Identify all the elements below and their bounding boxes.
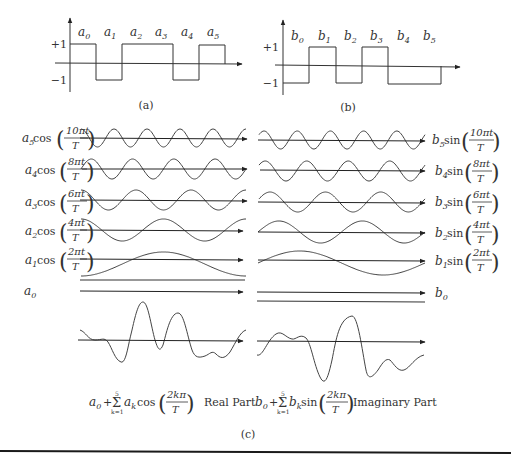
svg-text:): ) <box>186 391 195 416</box>
svg-text:sin: sin <box>444 134 460 147</box>
segment-label-b0: b0 <box>291 29 304 45</box>
panel-c-sine-components: b5 sin ( 10πt T ) b4 sin ( 8πt T ) <box>257 127 501 381</box>
svg-text:6πt: 6πt <box>68 188 86 199</box>
svg-text:b0: b0 <box>255 395 268 411</box>
cos-label-1: a1 cos ( 2πt T ) <box>25 246 95 274</box>
panel-b-x-axis <box>275 65 460 67</box>
imaginary-part-axis <box>257 341 425 342</box>
svg-text:T: T <box>477 173 485 184</box>
real-part-axis <box>78 340 243 341</box>
cos-row-3: a3 cos ( 6πt T ) <box>25 188 247 216</box>
svg-text:sin: sin <box>447 255 463 268</box>
svg-text:T: T <box>72 203 80 214</box>
segment-label-a2: a2 <box>130 25 142 41</box>
svg-text:10πt: 10πt <box>470 127 494 138</box>
imaginary-part-label: Imaginary Part <box>353 396 437 409</box>
svg-text:sin: sin <box>301 396 317 409</box>
svg-text:2πt: 2πt <box>67 246 86 257</box>
svg-text:T: T <box>72 171 80 182</box>
svg-text:2kπ: 2kπ <box>166 389 186 400</box>
svg-text:): ) <box>86 159 95 184</box>
sin-dc-axis <box>257 292 425 293</box>
real-part-formula: a0 + Σ 5 k=1 ak cos ( 2kπ T ) Real Part <box>89 389 256 416</box>
svg-text:a0: a0 <box>89 395 101 411</box>
svg-text:8πt: 8πt <box>68 156 86 167</box>
sin-axis-2 <box>258 232 425 233</box>
cos-label-2: a2 cos ( 4πt T ) <box>25 217 95 245</box>
svg-text:(: ( <box>158 391 167 416</box>
svg-text:8πt: 8πt <box>473 158 491 169</box>
segment-label-b2: b2 <box>344 29 357 45</box>
panel-c-caption: (c) <box>241 428 256 441</box>
svg-text:(: ( <box>464 250 473 275</box>
svg-text:(: ( <box>59 159 68 184</box>
cos-axis-2 <box>80 230 243 231</box>
sin-axis-5 <box>258 140 425 141</box>
cos-axis-1 <box>80 259 243 260</box>
fourier-decomposition-figure: +1 −1 a0 a1 a2 a3 a4 a5 (a) +1 −1 b0 b1 … <box>0 0 511 462</box>
cos-row-1: a1 cos ( 2πt T ) <box>25 246 246 276</box>
svg-text:T: T <box>72 140 80 151</box>
sin-row-5: b5 sin ( 10πt T ) <box>258 127 501 154</box>
dc-label-a0: a0 <box>24 284 36 300</box>
svg-text:): ) <box>87 127 96 152</box>
cos-label-4: a4 cos ( 8πt T ) <box>25 156 95 184</box>
svg-text:(: ( <box>318 391 327 416</box>
svg-text:k=1: k=1 <box>111 408 123 415</box>
svg-text:b4: b4 <box>435 164 448 180</box>
svg-text:b1: b1 <box>435 254 448 270</box>
cos-dc-axis <box>80 291 243 292</box>
segment-label-b1: b1 <box>318 29 331 45</box>
svg-text:b2: b2 <box>435 226 448 242</box>
svg-text:): ) <box>86 220 95 245</box>
sin-label-1: b1 sin ( 2πt T ) <box>435 247 500 275</box>
real-part-sum-wave <box>80 302 246 362</box>
real-part-label: Real Part <box>204 396 256 409</box>
sin-row-4: b4 sin ( 8πt T ) <box>259 158 500 185</box>
sin-label-4: b4 sin ( 8πt T ) <box>435 158 500 185</box>
svg-text:): ) <box>491 191 500 216</box>
svg-text:(: ( <box>464 191 473 216</box>
dc-label-b0: b0 <box>435 286 448 302</box>
svg-text:T: T <box>332 404 340 415</box>
sin-row-1: b1 sin ( 2πt T ) <box>258 247 500 275</box>
cos-row-4: a4 cos ( 8πt T ) <box>25 156 247 184</box>
svg-text:b3: b3 <box>435 195 448 211</box>
svg-text:6πt: 6πt <box>473 189 491 200</box>
svg-text:cos: cos <box>37 196 56 209</box>
svg-text:): ) <box>491 222 500 247</box>
panel-a-segment-labels: a0 a1 a2 a3 a4 a5 <box>78 25 219 41</box>
svg-text:2πt: 2πt <box>472 247 491 258</box>
sin-row-3: b3 sin ( 6πt T ) <box>258 189 500 216</box>
svg-text:a4: a4 <box>25 163 37 179</box>
segment-label-b4: b4 <box>397 29 410 45</box>
panel-a-square-wave: +1 −1 a0 a1 a2 a3 a4 a5 (a) <box>51 18 242 112</box>
panel-a-x-axis <box>55 63 242 64</box>
panel-b-tick-plus1: +1 <box>263 41 279 54</box>
svg-text:cos: cos <box>37 254 56 267</box>
sin-label-2: b2 sin ( 4πt T ) <box>435 219 500 247</box>
svg-text:a1: a1 <box>25 253 37 269</box>
panel-a-tick-minus1: −1 <box>51 74 67 87</box>
panel-b-segment-labels: b0 b1 b2 b3 b4 b5 <box>291 29 436 45</box>
svg-text:4πt: 4πt <box>472 219 491 230</box>
svg-text:): ) <box>86 249 95 274</box>
svg-text:sin: sin <box>447 227 463 240</box>
sin-axis-1 <box>258 260 425 261</box>
svg-text:T: T <box>477 204 485 215</box>
svg-text:(: ( <box>59 249 68 274</box>
svg-text:T: T <box>477 142 485 153</box>
sin-label-5: b5 sin ( 10πt T ) <box>432 127 501 154</box>
bottom-rule <box>0 451 511 453</box>
sin-dc-line <box>257 301 425 302</box>
panel-a-caption: (a) <box>138 99 153 112</box>
svg-text:5: 5 <box>115 390 119 397</box>
sin-axis-3 <box>258 202 425 203</box>
svg-text:(: ( <box>461 129 470 154</box>
svg-text:T: T <box>477 262 485 273</box>
cos-wave-1 <box>81 252 246 276</box>
svg-text:cos: cos <box>137 396 156 409</box>
segment-label-b5: b5 <box>423 29 436 45</box>
cos-row-5: a5 cos ( 10πt T ) <box>22 125 247 152</box>
svg-text:4πt: 4πt <box>67 217 86 228</box>
